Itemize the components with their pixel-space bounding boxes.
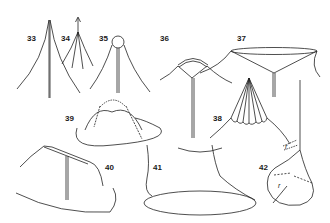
figure-label-38: 38 (213, 114, 222, 123)
figure-label-41: 41 (153, 163, 162, 172)
figure-label-37: 37 (237, 34, 246, 43)
figure-label-34: 34 (61, 34, 70, 43)
figure-label-40: 40 (105, 163, 114, 172)
figure-42 (267, 80, 313, 205)
figure-38 (210, 78, 290, 144)
figure-label-42: 42 (259, 163, 268, 172)
figure-41 (144, 145, 256, 215)
figure-label-35: 35 (99, 34, 108, 43)
figure-36 (160, 59, 232, 139)
figure-39 (76, 100, 161, 146)
figure-40 (16, 146, 116, 212)
figure-37 (200, 48, 320, 98)
annotation-r-upper: r (285, 143, 287, 150)
figure-34 (62, 17, 93, 69)
annotation-r-lower: r (278, 182, 280, 189)
diagram-canvas: 33 34 35 36 37 38 39 40 41 42 r r (0, 0, 330, 223)
figure-label-39: 39 (65, 114, 74, 123)
figure-label-36: 36 (160, 34, 169, 43)
figure-35 (90, 36, 150, 93)
figure-33 (17, 20, 80, 98)
figure-label-33: 33 (27, 34, 36, 43)
